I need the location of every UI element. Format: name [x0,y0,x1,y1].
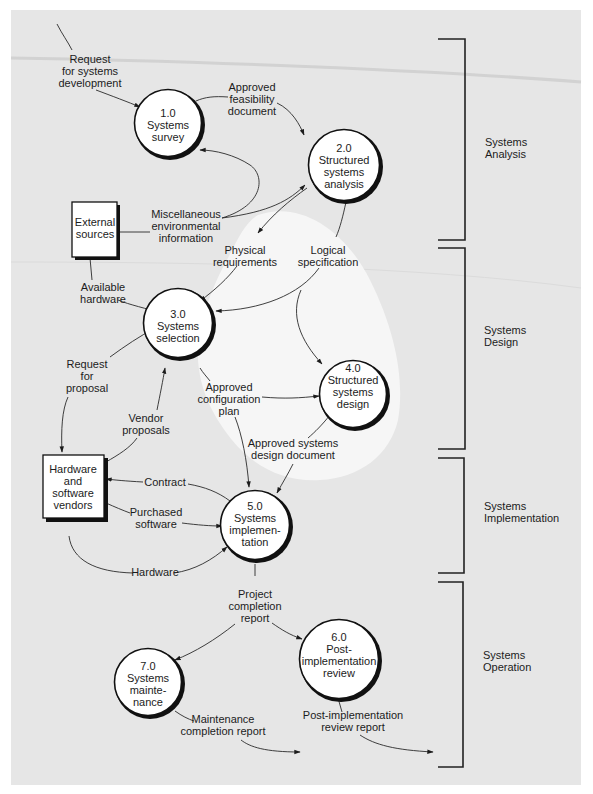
svg-text:design document: design document [251,449,335,461]
svg-text:Analysis: Analysis [485,148,526,160]
svg-text:proposals: proposals [122,424,170,436]
flow-label-approved-systems-design-document: Approved systems design document [248,437,339,461]
flow-label-request-for-proposal: Request for proposal [66,358,108,394]
svg-text:sources: sources [76,228,115,240]
process-2-structured-systems-analysis[interactable]: 2.0 Structured systems analysis [309,130,384,205]
svg-text:specification: specification [298,256,359,268]
svg-text:configuration: configuration [198,393,261,405]
flow-label-miscellaneous-environmental-information: Miscellaneous environmental information [151,208,221,244]
svg-text:Project: Project [238,588,272,600]
svg-text:report: report [241,612,270,624]
svg-text:Post-implementation: Post-implementation [303,709,403,721]
flow-label-approved-feasibility-document: Approved feasibility document [228,81,276,117]
svg-text:for: for [81,370,94,382]
svg-text:and: and [64,475,82,487]
flow-label-vendor-proposals: Vendor proposals [122,412,170,436]
svg-text:review report: review report [321,721,385,733]
svg-text:for systems: for systems [62,65,119,77]
phase-bracket-analysis [438,39,465,240]
svg-text:completion report: completion report [181,725,266,737]
svg-text:analysis: analysis [324,178,364,190]
phase-bracket-operation [438,582,463,767]
svg-text:Contract: Contract [144,476,186,488]
svg-text:2.0: 2.0 [336,142,351,154]
svg-text:Available: Available [81,281,125,293]
svg-text:Systems: Systems [234,512,277,524]
flow-label-available-hardware: Available hardware [80,281,126,305]
svg-text:software: software [52,487,94,499]
flow-label-contract: Contract [144,476,186,488]
svg-text:Physical: Physical [225,244,266,256]
external-entity-external-sources[interactable]: External sources [72,202,120,260]
process-5-systems-implementation[interactable]: 5.0 Systems implemen- tation [221,491,294,564]
process-1-systems-survey[interactable]: 1.0 Systems survey [135,90,206,161]
svg-text:proposal: proposal [66,382,108,394]
external-entity-hardware-software-vendors[interactable]: Hardware and software vendors [43,455,108,522]
svg-text:Logical: Logical [311,244,346,256]
process-4-structured-systems-design[interactable]: 4.0 Structured systems design [320,361,391,432]
svg-text:vendors: vendors [53,499,93,511]
svg-text:4.0: 4.0 [345,362,360,374]
svg-text:systems: systems [333,386,374,398]
svg-text:information: information [159,232,213,244]
svg-text:External: External [75,216,115,228]
svg-text:Operation: Operation [483,661,531,673]
svg-text:Post-: Post- [326,643,352,655]
process-3-systems-selection[interactable]: 3.0 Systems selection [144,289,217,362]
phase-bracket-implementation [438,458,464,573]
svg-text:mainte-: mainte- [130,684,167,696]
svg-text:5.0: 5.0 [247,500,262,512]
svg-text:systems: systems [324,166,365,178]
svg-text:Systems: Systems [147,119,190,131]
svg-text:6.0: 6.0 [331,631,346,643]
svg-text:Request: Request [67,358,108,370]
process-6-post-implementation-review[interactable]: 6.0 Post- implementation review [300,620,383,703]
flow-label-hardware: Hardware [131,566,179,578]
phase-label-analysis: Systems Analysis [485,136,528,160]
svg-text:3.0: 3.0 [170,308,185,320]
svg-text:Design: Design [484,336,518,348]
svg-text:requirements: requirements [213,256,278,268]
svg-text:Approved systems: Approved systems [248,437,339,449]
svg-text:Hardware: Hardware [49,463,97,475]
svg-text:nance: nance [133,696,163,708]
svg-text:Systems: Systems [485,136,528,148]
svg-text:Approved: Approved [228,81,275,93]
flow-label-project-completion-report: Project completion report [228,588,281,624]
phase-label-design: Systems Design [484,324,527,348]
phase-bracket-design [438,248,465,449]
svg-text:Systems: Systems [484,324,527,336]
data-flow-diagram: Systems Analysis Systems Design Systems … [0,0,593,794]
svg-text:review: review [323,667,355,679]
svg-text:Systems: Systems [157,320,200,332]
svg-text:Purchased: Purchased [130,506,183,518]
svg-text:Systems: Systems [483,649,526,661]
svg-text:Request: Request [70,53,111,65]
flow-label-maintenance-completion-report: Maintenance completion report [181,713,266,737]
svg-text:Hardware: Hardware [131,566,179,578]
svg-text:Vendor: Vendor [129,412,164,424]
flow-label-purchased-software: Purchased software [130,506,183,530]
svg-text:plan: plan [219,405,240,417]
phase-label-implementation: Systems Implementation [484,500,559,524]
process-7-systems-maintenance[interactable]: 7.0 Systems mainte- nance [115,649,186,720]
svg-text:development: development [59,77,122,89]
svg-text:selection: selection [156,332,199,344]
svg-text:Structured: Structured [319,154,370,166]
svg-text:1.0: 1.0 [160,107,175,119]
svg-text:7.0: 7.0 [140,660,155,672]
svg-text:survey: survey [152,131,185,143]
svg-text:Systems: Systems [127,672,170,684]
svg-text:Miscellaneous: Miscellaneous [151,208,221,220]
svg-text:document: document [228,105,276,117]
svg-text:design: design [337,398,369,410]
phase-label-operation: Systems Operation [483,649,531,673]
svg-text:Approved: Approved [205,381,252,393]
svg-text:Maintenance: Maintenance [192,713,255,725]
svg-text:software: software [135,518,177,530]
svg-text:feasibility: feasibility [229,93,275,105]
svg-text:completion: completion [228,600,281,612]
svg-text:tation: tation [242,536,269,548]
svg-text:Structured: Structured [328,374,379,386]
svg-text:implementation: implementation [302,655,377,667]
